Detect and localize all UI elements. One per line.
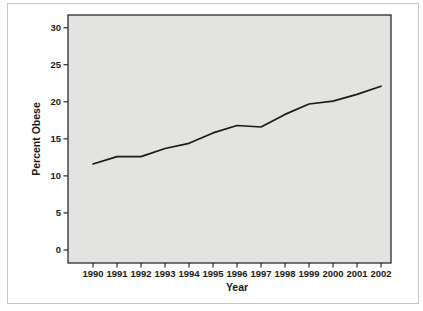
x-tick-label: 1999 <box>298 268 319 279</box>
x-axis: 1990199119921993199419951996199719981999… <box>82 263 391 279</box>
x-tick-label: 1995 <box>202 268 224 279</box>
x-tick-label: 1990 <box>82 268 103 279</box>
x-tick-label: 1993 <box>154 268 175 279</box>
x-tick-label: 1992 <box>130 268 151 279</box>
x-tick-label: 2000 <box>322 268 343 279</box>
y-axis: 051015202530 <box>50 22 68 255</box>
x-tick-label: 1994 <box>178 268 200 279</box>
x-tick-label: 2002 <box>370 268 391 279</box>
y-tick-label: 0 <box>56 244 61 255</box>
x-tick-label: 1998 <box>274 268 295 279</box>
y-axis-title: Percent Obese <box>30 102 42 176</box>
y-tick-label: 5 <box>56 207 62 218</box>
figure-page: 051015202530 199019911992199319941995199… <box>0 0 423 311</box>
x-axis-title: Year <box>226 281 248 293</box>
x-tick-label: 2001 <box>346 268 368 279</box>
y-tick-label: 20 <box>50 96 61 107</box>
obesity-line-chart: 051015202530 199019911992199319941995199… <box>0 0 423 311</box>
y-tick-label: 25 <box>50 59 61 70</box>
x-tick-label: 1996 <box>226 268 247 279</box>
x-tick-label: 1991 <box>106 268 128 279</box>
y-tick-label: 15 <box>50 133 61 144</box>
plot-area <box>68 15 391 263</box>
y-tick-label: 10 <box>50 170 61 181</box>
y-tick-label: 30 <box>50 22 61 33</box>
x-tick-label: 1997 <box>250 268 271 279</box>
